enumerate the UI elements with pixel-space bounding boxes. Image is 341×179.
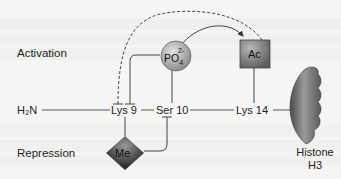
activation-label: Activation [17, 48, 67, 60]
histone-label-line2: H3 [290, 160, 340, 171]
acetyl-label: Ac [248, 49, 261, 60]
histone-modification-diagram: Activation Repression H₂N Lys 9 Ser 10 L… [0, 0, 341, 179]
histone-h3-shape [290, 67, 321, 144]
repression-label: Repression [17, 148, 75, 160]
methyl-label: Me [115, 148, 130, 159]
lys9-residue: Lys 9 [111, 105, 137, 116]
phosphate-label: PO42- [164, 51, 189, 66]
me-to-ser10-inhibition [144, 117, 167, 151]
histone-label-line1: Histone [290, 147, 340, 158]
ser10-residue: Ser 10 [156, 105, 188, 116]
n-terminus-label: H₂N [17, 105, 37, 116]
po4-to-lys9-inhibition [130, 55, 160, 104]
lys14-residue: Lys 14 [236, 105, 268, 116]
